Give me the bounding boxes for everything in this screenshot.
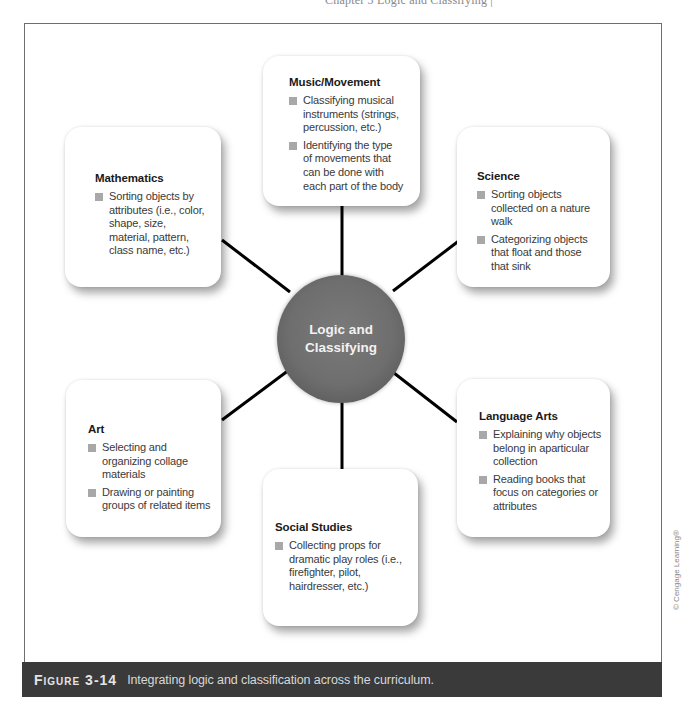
square-bullet-icon — [88, 444, 96, 452]
list-item: Sorting objects collected on a nature wa… — [477, 188, 602, 229]
hub-label: Logic and Classifying — [291, 321, 391, 357]
copyright-credit: © Cengage Learning® — [672, 530, 681, 610]
connector-language-arts — [394, 373, 457, 422]
figure-number: Figure 3-14 — [34, 672, 117, 688]
node-title: Social Studies — [275, 521, 410, 533]
square-bullet-icon — [479, 431, 487, 439]
node-music-movement: Music/Movement Classifying musical instr… — [263, 56, 420, 206]
node-title: Mathematics — [95, 172, 207, 184]
square-bullet-icon — [289, 142, 297, 150]
square-bullet-icon — [289, 97, 297, 105]
figure-caption-text: Integrating logic and classification acr… — [127, 673, 434, 687]
node-title: Science — [477, 170, 602, 182]
connector-mathematics — [222, 240, 290, 292]
list-item: Explaining why objects belong in apartic… — [479, 428, 602, 469]
list-item: Classifying musical instruments (strings… — [289, 94, 404, 135]
connector-science — [393, 240, 460, 291]
list-item: Collecting props for dramatic play roles… — [275, 539, 410, 593]
node-title: Art — [88, 423, 213, 435]
node-title: Music/Movement — [289, 76, 404, 88]
list-item: Reading books that focus on categories o… — [479, 473, 602, 514]
node-science: Science Sorting objects collected on a n… — [457, 127, 610, 287]
node-title: Language Arts — [479, 410, 602, 422]
square-bullet-icon — [88, 489, 96, 497]
node-social-studies: Social Studies Collecting props for dram… — [263, 469, 418, 626]
node-art: Art Selecting and organizing collage mat… — [66, 380, 221, 537]
figure-caption-bar: Figure 3-14 Integrating logic and classi… — [22, 662, 662, 697]
list-item: Sorting objects by attributes (i.e., col… — [95, 190, 207, 258]
node-language-arts: Language Arts Explaining why objects bel… — [457, 379, 610, 537]
list-item: Drawing or painting groups of related it… — [88, 486, 213, 513]
list-item: Categorizing objects that float and thos… — [477, 233, 602, 274]
square-bullet-icon — [95, 193, 103, 201]
central-hub-circle: Logic and Classifying — [277, 275, 405, 403]
square-bullet-icon — [479, 476, 487, 484]
node-mathematics: Mathematics Sorting objects by attribute… — [65, 127, 221, 287]
square-bullet-icon — [477, 236, 485, 244]
list-item: Selecting and organizing collage materia… — [88, 441, 213, 482]
square-bullet-icon — [275, 542, 283, 550]
square-bullet-icon — [477, 191, 485, 199]
list-item: Identifying the type of movements that c… — [289, 139, 404, 193]
connector-art — [222, 370, 289, 420]
